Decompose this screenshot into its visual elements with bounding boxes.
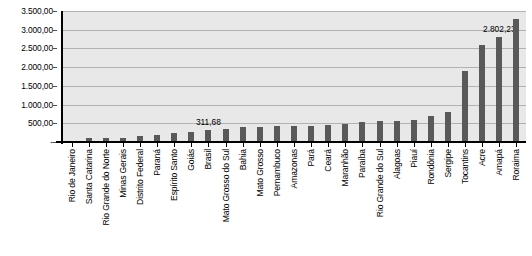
y-axis-tick-label: 2.000,00 — [21, 62, 53, 72]
bar[interactable] — [257, 127, 263, 142]
x-axis-tick-mark — [89, 142, 90, 147]
x-axis-slot: Espírito Santo — [166, 142, 183, 256]
bar[interactable] — [240, 127, 246, 142]
x-axis-tick-mark — [123, 142, 124, 147]
x-axis-tick-mark — [362, 142, 363, 147]
x-axis-tick-label: Sergipe — [443, 149, 453, 178]
bar[interactable] — [342, 124, 348, 142]
bar[interactable] — [496, 37, 502, 142]
x-axis-slot: Mato Grosso — [251, 142, 268, 256]
bar-slot — [422, 11, 439, 142]
x-axis-tick-mark — [328, 142, 329, 147]
x-axis-tick-mark — [311, 142, 312, 147]
x-axis-tick-label: Paraíba — [357, 149, 367, 178]
x-axis-slot: Mato Grosso do Sul — [217, 142, 234, 256]
y-axis: -500,001.000,001.500,002.000,002.500,003… — [0, 11, 57, 142]
x-axis-tick-label: Acre — [477, 149, 487, 166]
bar-slot — [457, 11, 474, 142]
x-axis-tick-mark — [380, 142, 381, 147]
x-axis-tick-mark — [294, 142, 295, 147]
bar[interactable] — [462, 71, 468, 142]
x-axis-tick-mark — [140, 142, 141, 147]
x-axis-tick-label: Rio de Janeiro — [67, 149, 77, 202]
x-axis-tick-mark — [277, 142, 278, 147]
bar[interactable] — [274, 126, 280, 142]
bar[interactable] — [377, 121, 383, 142]
x-axis-slot: Alagoas — [388, 142, 405, 256]
x-axis-tick-label: Mato Grosso do Sul — [221, 149, 231, 222]
bar[interactable] — [359, 122, 365, 142]
bar-slot — [166, 11, 183, 142]
bar-slot — [285, 11, 302, 142]
x-axis-tick-label: Ceará — [323, 149, 333, 172]
bar[interactable] — [479, 45, 485, 142]
x-axis-tick-label: Alagoas — [392, 149, 402, 179]
x-axis-slot: Paraíba — [354, 142, 371, 256]
x-axis-tick-mark — [482, 142, 483, 147]
bar-slot — [149, 11, 166, 142]
y-axis-tick-mark — [53, 11, 57, 12]
bar[interactable] — [411, 120, 417, 142]
y-axis-tick-label: 3.000,00 — [21, 25, 53, 35]
x-axis-slot: Goiás — [183, 142, 200, 256]
bar[interactable] — [428, 116, 434, 142]
x-axis-tick-label: Amazonas — [289, 149, 299, 188]
x-axis-tick-mark — [465, 142, 466, 147]
x-axis-tick-label: Bahia — [238, 149, 248, 170]
y-axis-tick-label: 2.500,00 — [21, 43, 53, 53]
x-axis-tick-mark — [516, 142, 517, 147]
bar-chart: -500,001.000,001.500,002.000,002.500,003… — [0, 0, 532, 256]
x-axis-slot: Rio de Janeiro — [63, 142, 80, 256]
y-axis-tick-label: 500,00 — [28, 118, 53, 128]
x-axis-tick-mark — [397, 142, 398, 147]
y-axis-tick-mark — [53, 48, 57, 49]
bar-slot — [217, 11, 234, 142]
x-axis-slot: Ceará — [320, 142, 337, 256]
x-axis-tick-mark — [106, 142, 107, 147]
bar-slot — [131, 11, 148, 142]
x-axis-tick-mark — [414, 142, 415, 147]
x-axis-slot: Pernambuco — [268, 142, 285, 256]
x-axis-tick-label: Pará — [306, 149, 316, 167]
x-axis-tick-label: Maranhão — [340, 149, 350, 187]
bar[interactable] — [308, 126, 314, 142]
bar-slot — [337, 11, 354, 142]
x-axis-slot: Amapá — [491, 142, 508, 256]
x-axis-slot: Distrito Federal — [131, 142, 148, 256]
x-axis-tick-mark — [448, 142, 449, 147]
bar[interactable] — [394, 121, 400, 142]
x-axis-tick-mark — [431, 142, 432, 147]
y-axis-tick-mark — [53, 105, 57, 106]
bar[interactable] — [513, 19, 519, 143]
x-axis-tick-mark — [208, 142, 209, 147]
bar[interactable] — [291, 126, 297, 142]
bar-slot — [508, 11, 525, 142]
x-axis-tick-mark — [260, 142, 261, 147]
x-axis-tick-label: Paraná — [152, 149, 162, 176]
x-axis-tick-mark — [191, 142, 192, 147]
y-axis-tick-mark — [53, 67, 57, 68]
x-axis-slot: Roraima — [508, 142, 525, 256]
bar-slot: 2.802,23 — [491, 11, 508, 142]
x-axis-tick-label: Pernambuco — [272, 149, 282, 196]
x-axis-tick-mark — [345, 142, 346, 147]
x-axis-tick-mark — [157, 142, 158, 147]
bar[interactable] — [445, 112, 451, 142]
y-axis-tick-mark — [53, 123, 57, 124]
x-axis-tick-mark — [499, 142, 500, 147]
bar-slot — [388, 11, 405, 142]
x-axis-tick-label: Distrito Federal — [135, 149, 145, 205]
bar[interactable] — [223, 129, 229, 142]
bar[interactable] — [325, 125, 331, 142]
bar-slot — [114, 11, 131, 142]
x-axis-slot: Amazonas — [285, 142, 302, 256]
x-axis-tick-label: Brasil — [203, 149, 213, 170]
x-axis-slot: Acre — [474, 142, 491, 256]
x-axis-tick-mark — [174, 142, 175, 147]
plot-area: 311,682.802,23 — [62, 11, 526, 142]
y-axis-tick-label: 3.500,00 — [21, 6, 53, 16]
x-axis-tick-label: Roraima — [511, 149, 521, 180]
x-axis-slot: Pará — [303, 142, 320, 256]
x-axis-tick-mark — [226, 142, 227, 147]
bar-slot — [234, 11, 251, 142]
